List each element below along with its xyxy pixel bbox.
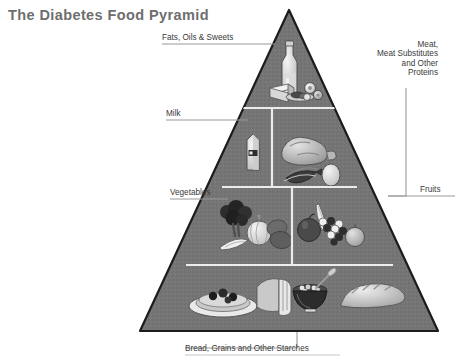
label-meat-proteins: Meat, Meat Substitutes and Other Protein… xyxy=(328,40,438,78)
leader-line-meat xyxy=(388,88,406,196)
milk-carton-icon xyxy=(247,134,259,170)
label-meat-line-1: Meat, xyxy=(328,40,438,49)
label-bread-grains: Bread, Grains and Other Starches xyxy=(185,344,309,353)
food-pyramid-figure: The Diabetes Food Pyramid xyxy=(0,0,460,361)
egg-icon xyxy=(322,164,340,186)
label-fruits: Fruits xyxy=(420,185,440,194)
label-fats-oils-sweets: Fats, Oils & Sweets xyxy=(162,33,233,42)
label-vegetables: Vegetables xyxy=(170,188,211,197)
label-meat-line-2: Meat Substitutes xyxy=(328,49,438,58)
sliced-bread-icon xyxy=(257,279,291,316)
label-milk: Milk xyxy=(166,109,181,118)
label-meat-line-4: Proteins xyxy=(328,68,438,77)
label-meat-line-3: and Other xyxy=(328,59,438,68)
